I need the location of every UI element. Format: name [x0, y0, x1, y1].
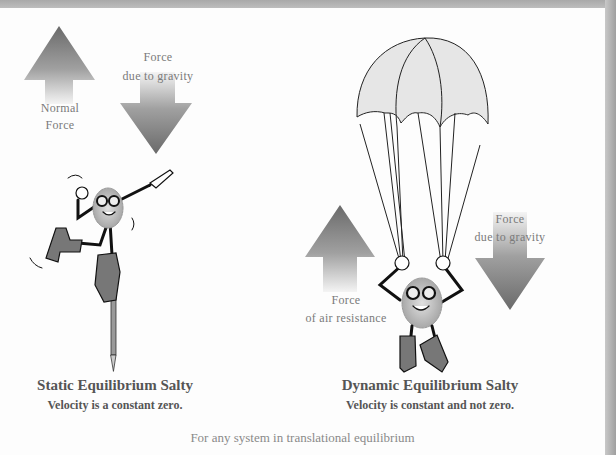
air-resistance-label: Force of air resistance [296, 291, 396, 327]
static-equilibrium-subtitle: Velocity is a constant zero. [20, 398, 210, 413]
air-resistance-label-line2: of air resistance [296, 309, 396, 327]
gravity-label-left: Force due to gravity [108, 48, 208, 86]
gravity-label-right-line1: Force [460, 210, 560, 228]
normal-force-label: Normal Force [36, 100, 84, 134]
air-resistance-arrow-icon [305, 205, 375, 292]
dynamic-equilibrium-subtitle: Velocity is constant and not zero. [320, 398, 540, 413]
gravity-label-right: Force due to gravity [460, 210, 560, 246]
gravity-label-left-line1: Force [108, 48, 208, 67]
static-salty-character [30, 170, 173, 371]
gravity-label-right-line2: due to gravity [460, 228, 560, 246]
gravity-label-left-line2: due to gravity [108, 67, 208, 86]
static-equilibrium-title: Static Equilibrium Salty [20, 377, 210, 394]
normal-force-arrow-icon [24, 26, 95, 104]
normal-force-label-line1: Normal [36, 100, 84, 117]
dynamic-equilibrium-title: Dynamic Equilibrium Salty [320, 377, 540, 394]
air-resistance-label-line1: Force [296, 291, 396, 309]
normal-force-label-line2: Force [36, 117, 84, 134]
figure-caption: For any system in translational equilibr… [0, 430, 605, 446]
